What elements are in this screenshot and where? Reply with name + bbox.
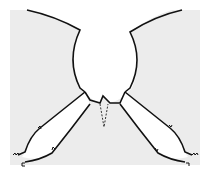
- sewing-pattern-diagram: [0, 0, 210, 175]
